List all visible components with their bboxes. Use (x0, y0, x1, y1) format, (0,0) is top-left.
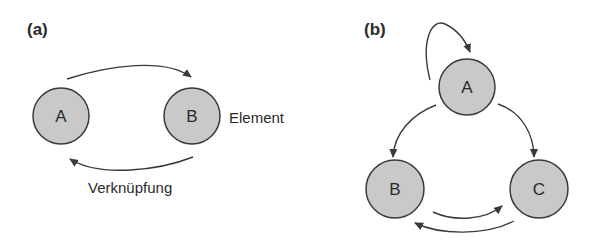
edge-b-to-a (70, 157, 193, 170)
edge-c-to-b (415, 221, 514, 232)
panel-b-label: (b) (364, 20, 386, 39)
edge-a-to-c (498, 104, 534, 157)
panel-a: (a) A B Element Verknüpfung (27, 20, 285, 196)
node-c: C (510, 160, 568, 218)
diagram-canvas: (a) A B Element Verknüpfung (b) A B (0, 0, 599, 241)
node-c-label: C (533, 180, 545, 199)
element-annotation: Element (229, 109, 285, 126)
node-b-label: B (389, 180, 400, 199)
panel-b: (b) A B C (364, 20, 568, 232)
link-annotation: Verknüpfung (88, 179, 172, 196)
node-a: A (439, 59, 495, 115)
edge-a-to-b (67, 65, 191, 79)
node-a-label: A (55, 107, 67, 126)
node-b: B (164, 88, 220, 144)
panel-a-label: (a) (27, 20, 48, 39)
node-b-label: B (186, 107, 197, 126)
node-b: B (366, 160, 424, 218)
node-a: A (33, 88, 89, 144)
node-a-label: A (461, 78, 473, 97)
edge-a-to-b (393, 105, 436, 157)
edge-b-to-c (433, 206, 502, 218)
